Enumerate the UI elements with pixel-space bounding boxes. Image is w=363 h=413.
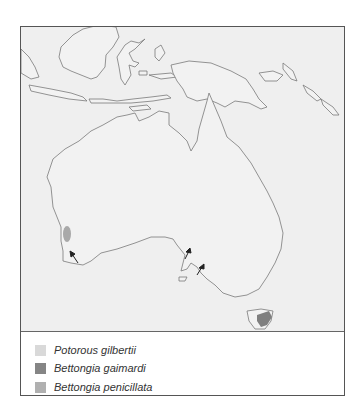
sundas-outline	[89, 95, 171, 103]
legend-item-bettongia-penicillata: Bettongia penicillata	[35, 380, 152, 394]
legend-swatch	[35, 382, 46, 393]
halmahera-outline	[155, 45, 165, 61]
java-outline	[29, 85, 87, 101]
map-legend: Potorous gilbertii Bettongia gaimardi Be…	[21, 333, 344, 395]
bettongia-penicillata-range	[63, 226, 71, 242]
timor-outline	[129, 105, 151, 111]
new-guinea-outline	[171, 61, 267, 109]
kangaroo-island-outline	[179, 277, 187, 281]
legend-swatch	[35, 363, 46, 374]
solomon-islands-outline	[303, 85, 321, 101]
legend-label: Bettongia penicillata	[54, 381, 152, 393]
seram-outline	[149, 73, 177, 79]
legend-label: Potorous gilbertii	[54, 344, 136, 356]
new-ireland-outline	[283, 63, 297, 81]
moluccas-small-outline	[139, 71, 147, 75]
borneo-outline	[59, 27, 119, 79]
legend-item-bettongia-gaimardi: Bettongia gaimardi	[35, 361, 146, 375]
legend-swatch	[35, 345, 46, 356]
sumatra-outline	[21, 49, 39, 79]
australia-outline	[47, 93, 283, 297]
solomon-islands-2-outline	[321, 99, 339, 115]
map-svg	[21, 27, 344, 331]
sulawesi-outline	[117, 39, 145, 85]
legend-label: Bettongia gaimardi	[54, 362, 146, 374]
distribution-map	[21, 27, 344, 332]
legend-item-potorous-gilbertii: Potorous gilbertii	[35, 343, 136, 357]
figure-frame: Potorous gilbertii Bettongia gaimardi Be…	[20, 26, 345, 396]
new-britain-outline	[259, 71, 283, 81]
